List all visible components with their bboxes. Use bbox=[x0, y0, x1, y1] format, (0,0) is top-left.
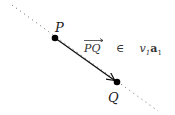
point-q bbox=[114, 79, 121, 86]
label-q: Q bbox=[108, 91, 119, 104]
basis-vector: a1 bbox=[150, 42, 162, 55]
point-p bbox=[52, 35, 59, 42]
vector-arrow-icon bbox=[84, 38, 104, 42]
diagram-canvas bbox=[0, 0, 175, 115]
vector-pq: PQ bbox=[84, 43, 100, 54]
dotted-line bbox=[12, 5, 158, 111]
label-p: P bbox=[55, 21, 64, 34]
coefficient: v1 bbox=[140, 42, 151, 55]
element-of-symbol: ∈ bbox=[116, 43, 124, 54]
formula: PQ ∈ v1a1 bbox=[84, 43, 162, 57]
